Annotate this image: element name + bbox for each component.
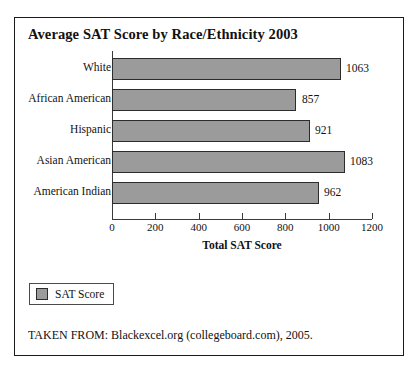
value-label-asian-american: 1083 bbox=[350, 155, 373, 167]
bar-african-american bbox=[112, 89, 296, 111]
chart-title: Average SAT Score by Race/Ethnicity 2003 bbox=[28, 26, 298, 43]
bar-hispanic bbox=[112, 120, 310, 142]
bar-asian-american bbox=[112, 151, 345, 173]
x-tick-label-200: 200 bbox=[147, 221, 164, 233]
x-tick-800 bbox=[285, 213, 286, 219]
category-label-american-indian: American Indian bbox=[0, 185, 111, 197]
x-axis-line bbox=[112, 219, 372, 220]
figure-frame: Average SAT Score by Race/Ethnicity 2003… bbox=[14, 17, 404, 356]
value-label-hispanic: 921 bbox=[315, 124, 332, 136]
category-label-hispanic: Hispanic bbox=[0, 123, 111, 135]
x-tick-label-0: 0 bbox=[109, 221, 115, 233]
bar-white bbox=[112, 58, 341, 80]
value-label-african-american: 857 bbox=[302, 93, 319, 105]
x-tick-200 bbox=[155, 213, 156, 219]
x-axis-title: Total SAT Score bbox=[112, 239, 372, 251]
value-label-american-indian: 962 bbox=[324, 186, 341, 198]
x-tick-0 bbox=[112, 213, 113, 219]
x-tick-600 bbox=[242, 213, 243, 219]
category-label-african-american: African American bbox=[0, 92, 111, 104]
legend-swatch-sat-score bbox=[36, 288, 48, 300]
source-note: TAKEN FROM: Blackexcel.org (collegeboard… bbox=[28, 328, 313, 343]
x-tick-label-400: 400 bbox=[190, 221, 207, 233]
bar-american-indian bbox=[112, 182, 319, 204]
x-tick-1000 bbox=[329, 213, 330, 219]
x-tick-label-1200: 1200 bbox=[361, 221, 383, 233]
legend-label-sat-score: SAT Score bbox=[55, 288, 104, 300]
x-tick-label-1000: 1000 bbox=[318, 221, 340, 233]
plot-area: White African American Hispanic Asian Am… bbox=[15, 50, 403, 236]
value-label-white: 1063 bbox=[346, 62, 369, 74]
chart-legend: SAT Score bbox=[29, 283, 114, 305]
category-label-white: White bbox=[0, 61, 111, 73]
x-tick-label-800: 800 bbox=[277, 221, 294, 233]
category-label-asian-american: Asian American bbox=[0, 154, 111, 166]
x-tick-400 bbox=[199, 213, 200, 219]
x-tick-label-600: 600 bbox=[234, 221, 251, 233]
x-tick-1200 bbox=[372, 213, 373, 219]
